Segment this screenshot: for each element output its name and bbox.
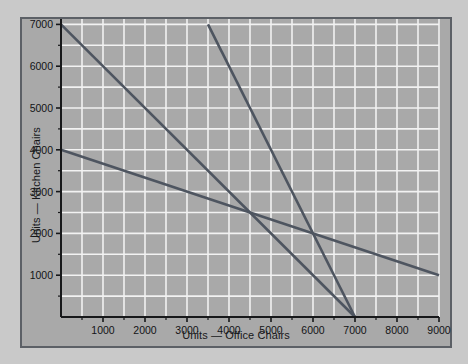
chart-figure: Units — Kitchen Chairs 10002000300040005… xyxy=(20,17,452,348)
y-tick-label: 6000 xyxy=(30,60,54,72)
chart-svg: 1000200030004000500060007000100020003000… xyxy=(22,19,454,350)
y-tick-label: 2000 xyxy=(30,227,54,239)
y-tick-label: 7000 xyxy=(30,19,54,30)
plot-area: 1000200030004000500060007000100020003000… xyxy=(22,19,450,346)
y-tick-label: 4000 xyxy=(30,144,54,156)
y-tick-label: 3000 xyxy=(30,186,54,198)
x-axis-title: Units — Office Chairs xyxy=(22,329,450,341)
y-tick-label: 5000 xyxy=(30,102,54,114)
y-tick-label: 1000 xyxy=(30,269,54,281)
